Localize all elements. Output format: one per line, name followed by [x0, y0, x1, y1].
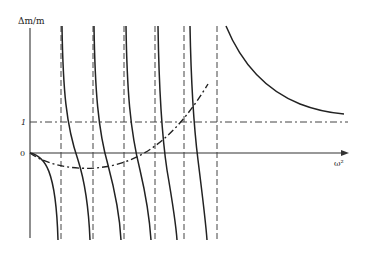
branch-4: [158, 26, 177, 240]
y-axis-label: Δm/m: [18, 16, 45, 26]
asymptotes: [61, 26, 217, 240]
x-axis-label: ω²: [334, 159, 344, 168]
branch-5: [190, 26, 207, 240]
branch-2: [94, 26, 121, 240]
x-axis-arrow-icon: [341, 150, 349, 156]
tick-label-one: 1: [21, 118, 26, 127]
parabola-curve: [30, 84, 208, 168]
branch-6: [226, 26, 344, 114]
branch-3: [126, 26, 151, 240]
tick-label-zero: 0: [20, 149, 25, 158]
branch-0: [30, 153, 58, 240]
resonance-diagram: Δm/m ω² 0 1: [0, 0, 365, 277]
branch-1: [62, 26, 90, 240]
resonance-branches: [30, 26, 344, 240]
